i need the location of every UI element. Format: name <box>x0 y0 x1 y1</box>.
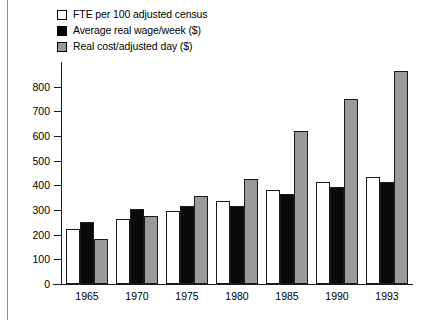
x-axis-tick-label: 1980 <box>217 291 257 302</box>
x-axis-tick-label: 1965 <box>67 291 107 302</box>
bar-group <box>216 62 258 284</box>
bar-group <box>66 62 108 284</box>
bar <box>166 211 180 284</box>
bar <box>66 229 80 285</box>
x-axis-tick-label: 1990 <box>317 291 357 302</box>
bar <box>80 222 94 284</box>
bar <box>194 196 208 284</box>
y-axis-tick <box>54 235 62 236</box>
x-axis-tick-label: 1985 <box>267 291 307 302</box>
y-axis-tick <box>54 284 62 285</box>
y-axis-tick-label-wrap: 400 <box>14 185 50 186</box>
x-axis-line <box>53 284 413 285</box>
y-axis-tick-label: 600 <box>16 131 50 141</box>
legend-item-wage: Average real wage/week ($) <box>57 23 207 38</box>
bar <box>230 206 244 284</box>
y-axis-tick-label-wrap: 300 <box>14 210 50 211</box>
bar-group <box>366 62 408 284</box>
y-axis-tick-label-wrap: 800 <box>14 87 50 88</box>
bar <box>216 201 230 284</box>
y-axis-tick-label: 400 <box>16 180 50 190</box>
bar <box>344 99 358 284</box>
bar <box>130 209 144 284</box>
y-axis-tick <box>54 136 62 137</box>
y-axis-tick-label: 200 <box>16 230 50 240</box>
x-axis-tick-label: 1975 <box>167 291 207 302</box>
y-axis-tick <box>54 111 62 112</box>
bar <box>394 71 408 284</box>
y-axis-tick-label-wrap: 200 <box>14 235 50 236</box>
y-axis-tick-label: 700 <box>16 106 50 116</box>
legend-item-fte: FTE per 100 adjusted census <box>57 7 207 22</box>
y-axis-tick-label-wrap: 700 <box>14 111 50 112</box>
y-axis-tick <box>54 87 62 88</box>
y-axis-tick <box>54 161 62 162</box>
bar-group <box>166 62 208 284</box>
bar <box>294 131 308 284</box>
bar <box>180 206 194 284</box>
x-axis-tick-label: 1993 <box>367 291 407 302</box>
y-axis-tick-label: 800 <box>16 82 50 92</box>
bar <box>144 216 158 284</box>
y-axis-tick-label: 300 <box>16 205 50 215</box>
white-swatch-icon <box>57 10 67 20</box>
y-axis-tick-label-wrap: 600 <box>14 136 50 137</box>
y-axis-tick-label: 0 <box>16 279 50 289</box>
bar <box>266 190 280 284</box>
y-axis-tick-label: 500 <box>16 156 50 166</box>
y-axis-tick <box>54 185 62 186</box>
black-swatch-icon <box>57 26 67 36</box>
y-axis-tick <box>54 210 62 211</box>
gray-swatch-icon <box>57 42 67 52</box>
y-axis-tick-label-wrap: 100 <box>14 259 50 260</box>
bar <box>244 179 258 284</box>
bar <box>380 182 394 284</box>
bar <box>94 239 108 284</box>
bar <box>116 219 130 284</box>
bar <box>316 182 330 284</box>
bar <box>366 177 380 284</box>
y-axis-tick-label-wrap: 500 <box>14 161 50 162</box>
bar <box>330 187 344 284</box>
y-axis-tick <box>54 259 62 260</box>
legend-item-cost: Real cost/adjusted day ($) <box>57 39 207 54</box>
bar <box>280 194 294 284</box>
y-axis-tick-label-wrap: 0 <box>14 284 50 285</box>
chart-legend: FTE per 100 adjusted census Average real… <box>57 7 207 55</box>
bar-chart-figure: FTE per 100 adjusted census Average real… <box>0 0 427 320</box>
legend-label-fte: FTE per 100 adjusted census <box>73 9 207 20</box>
legend-label-wage: Average real wage/week ($) <box>73 25 201 36</box>
x-axis-tick-label: 1970 <box>117 291 157 302</box>
legend-label-cost: Real cost/adjusted day ($) <box>73 41 192 52</box>
chart-bars <box>62 62 412 284</box>
y-axis-tick-label: 100 <box>16 254 50 264</box>
bar-group <box>316 62 358 284</box>
bar-group <box>116 62 158 284</box>
bar-group <box>266 62 308 284</box>
